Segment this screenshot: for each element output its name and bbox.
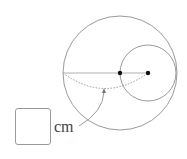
unit-label: cm [54, 118, 74, 136]
large-circle-center-dot [118, 71, 122, 75]
small-circle-center-dot [146, 71, 150, 75]
pointer-arrow [79, 92, 104, 126]
answer-input-box[interactable] [15, 108, 51, 145]
measurement-brace-arc [63, 73, 148, 89]
